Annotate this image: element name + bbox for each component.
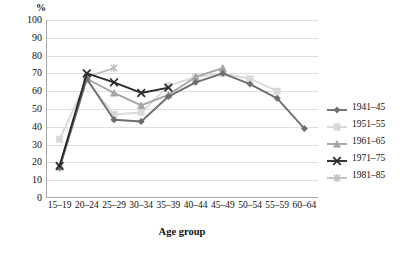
- legend-marker-icon: [326, 153, 348, 165]
- legend-item-1961-65[interactable]: 1961–65: [326, 133, 403, 150]
- data-point-marker: [56, 136, 62, 142]
- legend-marker-icon: [326, 119, 348, 131]
- chart-figure: % 0102030405060708090100 15–1920–2425–29…: [0, 0, 403, 255]
- legend-label: 1971–75: [352, 153, 385, 164]
- legend-marker-glyph: [334, 123, 340, 129]
- data-point-marker: [138, 109, 144, 115]
- data-point-marker: [110, 89, 117, 96]
- legend-label: 1961–65: [352, 136, 385, 147]
- legend-label: 1951–55: [352, 119, 385, 130]
- x-axis-title: Age group: [46, 226, 318, 237]
- legend-marker-icon: [326, 170, 348, 182]
- legend-marker-glyph: [334, 106, 340, 112]
- legend-item-1981-85[interactable]: 1981–85: [326, 167, 403, 184]
- chart-legend: 1941–451951–551961–651971–751981–85: [326, 99, 403, 184]
- x-axis-tick-labels: 15–1920–2425–2930–3435–3940–4445–4950–54…: [46, 200, 318, 220]
- legend-label: 1941–45: [352, 102, 385, 113]
- legend-marker-icon: [326, 102, 348, 114]
- legend-marker-icon: [326, 136, 348, 148]
- legend-item-1951-55[interactable]: 1951–55: [326, 116, 403, 133]
- x-tick-label: 60–64: [281, 200, 327, 211]
- legend-label: 1981–85: [352, 170, 385, 181]
- data-point-marker: [274, 88, 280, 94]
- legend-item-1971-75[interactable]: 1971–75: [326, 150, 403, 167]
- legend-item-1941-45[interactable]: 1941–45: [326, 99, 403, 116]
